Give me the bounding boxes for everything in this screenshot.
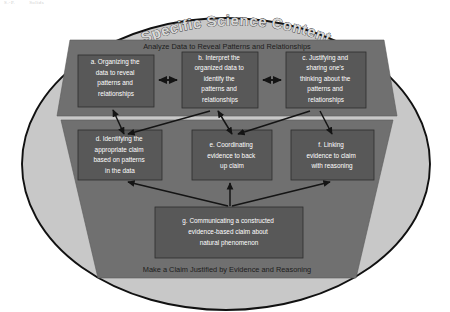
page-root: S.-P.Solids Specific Science Content Ana… bbox=[0, 0, 450, 312]
lower-panel-banner: Make a Claim Justified by Evidence and R… bbox=[143, 265, 311, 274]
upper-panel-banner: Analyze Data to Reveal Patterns and Rela… bbox=[143, 42, 311, 51]
science-content-diagram: Specific Science Content Analyze Data to… bbox=[0, 0, 450, 312]
